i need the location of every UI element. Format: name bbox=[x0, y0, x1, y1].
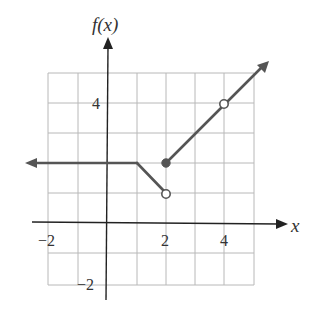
y-tick-label-neg2: −2 bbox=[77, 276, 94, 293]
axes bbox=[32, 37, 288, 300]
open-point-2-1 bbox=[162, 190, 170, 198]
x-axis-arrow-icon bbox=[276, 219, 288, 229]
curve-left-arrow-icon bbox=[25, 158, 37, 168]
x-axis-label: x bbox=[290, 215, 300, 236]
piece-increasing bbox=[166, 67, 262, 163]
x-tick-label-2: 2 bbox=[161, 232, 169, 249]
x-tick-label-neg2: −2 bbox=[38, 232, 55, 249]
closed-point-2-2 bbox=[162, 159, 170, 167]
graph-svg: f(x) x −2 2 4 4 −2 bbox=[0, 0, 318, 313]
open-point-4-4 bbox=[220, 100, 228, 108]
y-axis bbox=[106, 46, 108, 300]
piece-decreasing bbox=[137, 163, 164, 191]
y-axis-label: f(x) bbox=[92, 14, 118, 36]
y-axis-arrow-icon bbox=[103, 37, 113, 49]
x-tick-label-4: 4 bbox=[220, 232, 228, 249]
x-axis bbox=[32, 222, 280, 224]
function-curve bbox=[32, 67, 262, 191]
graph-figure: f(x) x −2 2 4 4 −2 bbox=[0, 0, 318, 313]
y-tick-label-4: 4 bbox=[92, 95, 100, 112]
